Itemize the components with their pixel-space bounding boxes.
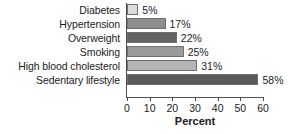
- x-tick: [127, 97, 128, 101]
- bar-row: 17%: [127, 17, 263, 31]
- bar-value-label: 58%: [258, 73, 283, 87]
- x-tick-label: 30: [189, 102, 201, 114]
- x-tick: [150, 97, 151, 101]
- x-tick: [263, 97, 264, 101]
- bar-value-label: 5%: [138, 3, 157, 17]
- bar-row: 31%: [127, 59, 263, 73]
- bar-high-blood-cholesterol: [127, 60, 197, 71]
- x-tick: [240, 97, 241, 101]
- x-tick-label: 20: [166, 102, 178, 114]
- bar-value-label: 31%: [197, 59, 222, 73]
- x-tick-label: 60: [257, 102, 269, 114]
- category-axis-labels: Diabetes Hypertension Overweight Smoking…: [0, 3, 124, 87]
- bar-hypertension: [127, 18, 166, 29]
- x-tick-label: 10: [144, 102, 156, 114]
- category-label: Smoking: [0, 45, 124, 59]
- bar-row: 58%: [127, 73, 263, 87]
- bar-overweight: [127, 32, 177, 43]
- bar-value-label: 25%: [184, 45, 209, 59]
- bar-value-label: 22%: [177, 31, 202, 45]
- x-tick: [172, 97, 173, 101]
- bar-row: 22%: [127, 31, 263, 45]
- category-label: Overweight: [0, 31, 124, 45]
- bar-value-label: 17%: [166, 17, 191, 31]
- plot-area: 5% 17% 22% 25% 31% 58% 0102030405060: [127, 3, 263, 97]
- category-label: Sedentary lifestyle: [0, 73, 124, 87]
- bar-row: 5%: [127, 3, 263, 17]
- category-label: Diabetes: [0, 3, 124, 17]
- category-label: High blood cholesterol: [0, 59, 124, 73]
- bar-sedentary-lifestyle: [127, 74, 258, 85]
- category-label: Hypertension: [0, 17, 124, 31]
- bar-diabetes: [127, 4, 138, 15]
- x-tick-label: 0: [124, 102, 130, 114]
- x-tick-label: 50: [234, 102, 246, 114]
- bar-row: 25%: [127, 45, 263, 59]
- bar-smoking: [127, 46, 184, 57]
- x-tick: [195, 97, 196, 101]
- x-tick-label: 40: [212, 102, 224, 114]
- bar-chart: Diabetes Hypertension Overweight Smoking…: [0, 0, 299, 134]
- x-tick: [218, 97, 219, 101]
- x-axis-title: Percent: [127, 115, 263, 127]
